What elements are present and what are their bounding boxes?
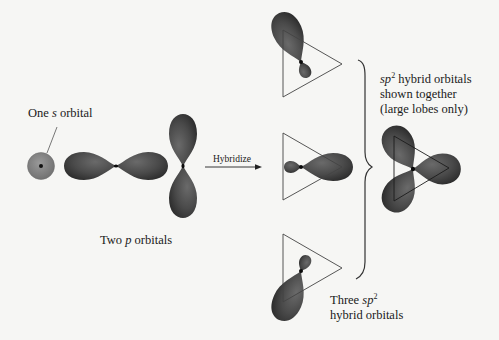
p-orbital-vertical xyxy=(169,114,197,218)
label-text: Two xyxy=(100,233,125,247)
sp2-orbital-upper xyxy=(266,7,342,97)
shown-together-line2: shown together xyxy=(380,87,472,102)
orbital-diagram xyxy=(0,0,499,340)
label-superscript: 2 xyxy=(373,292,377,301)
shown-together-line3: (large lobes only) xyxy=(380,102,472,117)
s-orbital xyxy=(28,127,58,180)
label-italic: sp xyxy=(380,72,391,86)
s-orbital-label: One s orbital xyxy=(28,106,93,120)
nucleus-dot xyxy=(39,164,43,168)
sp2-orbital-middle xyxy=(283,133,353,200)
label-text: Three xyxy=(330,293,362,307)
label-italic: sp xyxy=(362,293,373,307)
shown-together-line1: sp2 hybrid orbitals xyxy=(380,72,472,87)
three-sp2-label: Three sp2 hybrid orbitals xyxy=(330,293,403,323)
p-orbitals-label: Two p orbitals xyxy=(100,233,172,247)
shown-together-label: sp2 hybrid orbitals shown together (larg… xyxy=(380,72,472,117)
sp2-combined xyxy=(376,120,461,218)
hybridize-label: Hybridize xyxy=(213,152,251,166)
p-orbital-horizontal xyxy=(64,152,168,180)
grouping-brace xyxy=(356,60,372,279)
s-orbital-pointer-line xyxy=(47,127,57,153)
label-text: orbital xyxy=(57,106,93,120)
label-text: hybrid orbitals xyxy=(395,72,471,86)
three-sp2-line1: Three sp2 xyxy=(330,293,403,308)
three-sp2-line2: hybrid orbitals xyxy=(330,308,403,323)
label-text: One xyxy=(28,106,52,120)
label-text: orbitals xyxy=(131,233,172,247)
